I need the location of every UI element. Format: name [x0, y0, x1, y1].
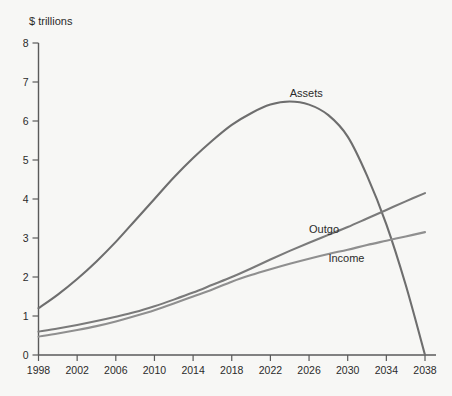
x-tick-label: 2014 [181, 364, 205, 376]
x-tick-label: 2034 [375, 364, 399, 376]
x-tick-label: 2010 [143, 364, 167, 376]
line-chart: $ trillions 012345678 199820022006201020… [0, 0, 452, 396]
chart-background [0, 0, 452, 396]
x-tick-label: 2030 [336, 364, 360, 376]
series-label-income: Income [328, 252, 364, 264]
y-tick-label: 7 [23, 76, 29, 88]
x-tick-label: 2026 [297, 364, 321, 376]
x-tick-label: 2006 [104, 364, 128, 376]
series-label-assets: Assets [290, 87, 324, 99]
chart-container: $ trillions 012345678 199820022006201020… [0, 0, 452, 396]
y-tick-label: 5 [23, 154, 29, 166]
x-tick-label: 2018 [220, 364, 244, 376]
y-tick-label: 8 [23, 37, 29, 49]
series-label-outgo: Outgo [309, 223, 339, 235]
y-tick-label: 3 [23, 232, 29, 244]
y-tick-label: 2 [23, 271, 29, 283]
x-tick-label: 2038 [413, 364, 437, 376]
x-tick-label: 2002 [65, 364, 89, 376]
y-tick-label: 0 [23, 349, 29, 361]
y-axis-title: $ trillions [29, 15, 73, 27]
y-tick-label: 6 [23, 115, 29, 127]
x-tick-label: 2022 [259, 364, 283, 376]
y-tick-label: 4 [23, 193, 29, 205]
x-tick-label: 1998 [27, 364, 51, 376]
y-tick-label: 1 [23, 310, 29, 322]
